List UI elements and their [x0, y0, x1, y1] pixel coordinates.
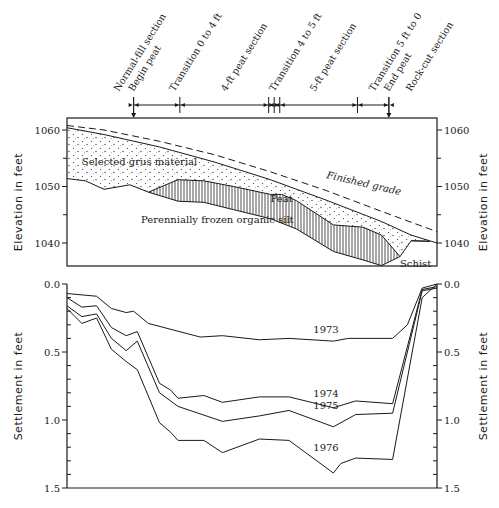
settlement-tick-label-right: 0.0	[444, 279, 460, 290]
down-arrow-icon	[131, 113, 136, 118]
section-label: 4-ft peat section	[218, 21, 269, 93]
settlement-axis-label-right: Settlement in feet	[477, 331, 490, 440]
elevation-tick-label-left: 1050	[35, 181, 60, 192]
year-label: 1973	[313, 324, 338, 335]
arrowhead-icon	[390, 103, 394, 107]
down-arrow-icon	[386, 113, 391, 118]
layer-label: Finished grade	[325, 169, 403, 197]
elevation-tick-label-left: 1040	[35, 238, 60, 249]
arrowhead-icon	[384, 103, 388, 107]
settlement-tick-label-right: 1.5	[444, 483, 460, 494]
settlement-chart: 0.00.00.50.51.01.01.51.5 197319741975197…	[12, 279, 490, 494]
elevation-axis-label-left: Elevation in feet	[12, 153, 25, 252]
settlement-line-1975	[67, 288, 437, 427]
layer-label: Perennially frozen organic silt	[141, 214, 294, 225]
year-label: 1974	[313, 388, 338, 399]
arrowhead-icon	[281, 103, 285, 107]
section-label: 5-ft peat section	[307, 21, 358, 93]
elevation-tick-label-right: 1040	[444, 238, 469, 249]
arrowhead-icon	[129, 103, 133, 107]
settlement-year-labels: 1973197419751976	[313, 324, 338, 453]
elevation-tick-label-left: 1060	[35, 125, 60, 136]
settlement-tick-label-right: 1.0	[444, 415, 460, 426]
settlement-line-1973	[67, 284, 437, 341]
schist-surface-line	[411, 241, 430, 242]
settlement-line-1976	[67, 284, 437, 473]
year-label: 1976	[313, 442, 338, 453]
settlement-tick-label-right: 0.5	[444, 347, 460, 358]
elevation-axis-label-right: Elevation in feet	[477, 153, 490, 252]
arrowhead-icon	[175, 103, 179, 107]
layer-label: Selected grus material	[82, 156, 197, 167]
arrowhead-icon	[264, 103, 268, 107]
section-markers: Normal-fill sectionBegin peatTransition …	[111, 10, 455, 118]
arrowhead-icon	[181, 103, 185, 107]
arrowhead-icon	[358, 103, 362, 107]
elevation-tick-label-right: 1050	[444, 181, 469, 192]
settlement-axis-label-left: Settlement in feet	[12, 331, 25, 440]
settlement-tick-label-left: 1.5	[44, 483, 60, 494]
figure: 104010401050105010601060 Selected grus m…	[0, 0, 499, 508]
settlement-tick-label-left: 0.0	[44, 279, 60, 290]
arrowhead-icon	[352, 103, 356, 107]
elevation-profile-chart: 104010401050105010601060 Selected grus m…	[12, 10, 490, 268]
settlement-tick-label-left: 0.5	[44, 347, 60, 358]
settlement-lines	[67, 284, 437, 473]
elevation-tick-label-right: 1060	[444, 125, 469, 136]
layer-label: Schist	[400, 258, 431, 269]
year-label: 1975	[313, 400, 338, 411]
section-label: Transition 0 to 4 ft	[167, 10, 224, 93]
layer-fills	[67, 128, 437, 266]
layer-label: Peat	[271, 193, 293, 204]
arrowhead-icon	[135, 103, 139, 107]
settlement-tick-label-left: 1.0	[44, 415, 60, 426]
